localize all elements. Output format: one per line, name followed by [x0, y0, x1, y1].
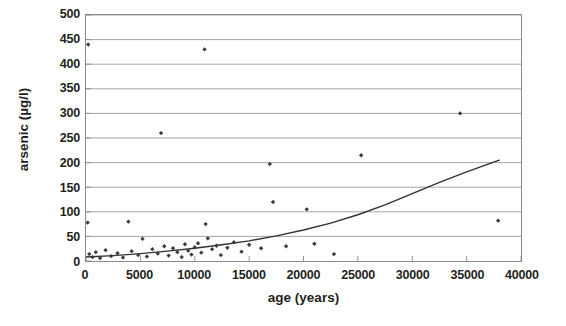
data-point [103, 248, 107, 252]
data-point [239, 249, 243, 253]
y-tick-label: 50 [66, 230, 80, 244]
x-tick-label: 30000 [396, 268, 430, 282]
data-point [458, 111, 462, 115]
data-point [126, 219, 130, 223]
data-point [129, 249, 133, 253]
arsenic-age-scatter-figure: arsenic (µg/l) 0501001502002503003504004… [0, 0, 566, 326]
y-tick-label: 500 [60, 7, 80, 21]
data-point [225, 246, 229, 250]
x-tick-label: 5000 [126, 268, 153, 282]
y-axis-title: arsenic (µg/l) [16, 45, 31, 215]
data-point [259, 246, 263, 250]
data-point [247, 243, 251, 247]
y-tick-label: 450 [60, 32, 80, 46]
gridlines [86, 15, 521, 236]
y-tick-label: 0 [73, 255, 80, 269]
x-tick-label: 25000 [341, 268, 375, 282]
data-point [166, 253, 170, 257]
data-point [87, 252, 91, 256]
x-tick-label: 35000 [450, 268, 484, 282]
data-point [109, 254, 113, 258]
y-tick-label: 100 [60, 205, 80, 219]
data-point [203, 222, 207, 226]
data-point [86, 42, 90, 46]
x-axis-tick-labels: 0500010000150002000025000300003500040000 [85, 268, 522, 286]
data-point [359, 153, 363, 157]
y-tick-label: 250 [60, 131, 80, 145]
data-point [305, 207, 309, 211]
data-point [219, 253, 223, 257]
data-point [199, 250, 203, 254]
x-axis-title: age (years) [85, 290, 522, 305]
y-tick-label: 150 [60, 181, 80, 195]
data-point [496, 218, 500, 222]
fitted-trend-line [86, 160, 499, 257]
data-point [86, 220, 90, 224]
data-point [159, 131, 163, 135]
data-point [140, 237, 144, 241]
data-point [90, 255, 94, 259]
data-point [312, 242, 316, 246]
x-tick-label: 40000 [505, 268, 539, 282]
y-axis-tick-labels: 050100150200250300350400450500 [38, 14, 80, 262]
data-point [150, 247, 154, 251]
data-point [202, 47, 206, 51]
y-tick-label: 200 [60, 156, 80, 170]
data-point [271, 200, 275, 204]
plot-area [85, 14, 522, 262]
y-tick-label: 300 [60, 106, 80, 120]
data-point [180, 255, 184, 259]
data-point [214, 244, 218, 248]
x-tick-label: 15000 [232, 268, 266, 282]
data-point [189, 252, 193, 256]
plot-canvas [86, 15, 521, 261]
data-point [183, 242, 187, 246]
y-tick-label: 350 [60, 81, 80, 95]
scatter-points [86, 42, 500, 260]
x-tick-label: 20000 [287, 268, 321, 282]
y-tick-label: 400 [60, 57, 80, 71]
x-tick-label: 0 [82, 268, 89, 282]
data-point [121, 255, 125, 259]
data-point [210, 247, 214, 251]
data-point [145, 254, 149, 258]
data-point [94, 250, 98, 254]
data-point [284, 244, 288, 248]
data-point [196, 241, 200, 245]
data-point [162, 244, 166, 248]
x-tick-label: 10000 [177, 268, 211, 282]
data-point [332, 252, 336, 256]
